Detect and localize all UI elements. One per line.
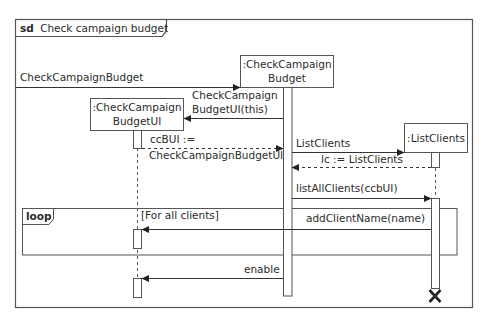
lifeline-name: :ListClients xyxy=(407,132,465,144)
sequence-diagram: sd Check campaign budget loop [For all c… xyxy=(0,0,485,320)
message-checkcampaignbudget: CheckCampaignBudget xyxy=(16,71,240,88)
lifeline-name-line1: :CheckCampaign xyxy=(92,101,181,113)
message-label: addClientName(name) xyxy=(306,212,425,224)
frame-keyword: sd xyxy=(20,22,34,34)
activation-bar xyxy=(284,88,293,297)
message-label: listAllClients(ccbUI) xyxy=(296,182,398,194)
message-label: CheckCampaignBudget xyxy=(20,71,143,83)
activation-bar xyxy=(134,279,142,298)
message-label-line1: ccBUI := xyxy=(150,133,195,145)
message-label-line2: CheckCampaignBudgetUI xyxy=(149,149,283,161)
message-label-line1: CheckCampaign xyxy=(192,89,278,101)
message-label: lc := ListClients xyxy=(321,153,403,165)
destroy-icon xyxy=(430,290,441,302)
loop-guard: [For all clients] xyxy=(141,209,219,221)
activation-bar xyxy=(134,131,142,149)
message-label: enable xyxy=(244,263,280,275)
frame-title-text: Check campaign budget xyxy=(40,22,168,34)
activation-bar xyxy=(432,199,440,289)
message-listallclients: listAllClients(ccbUI) xyxy=(292,182,431,199)
message-return-lc: lc := ListClients xyxy=(292,153,431,168)
lifeline-name-line1: :CheckCampaign xyxy=(242,58,331,70)
frame-title: sd Check campaign budget xyxy=(20,22,168,34)
message-return-ccbui: ccBUI := CheckCampaignBudgetUI xyxy=(142,133,283,161)
activation-bar xyxy=(432,153,440,168)
activation-bar xyxy=(134,230,142,249)
message-label: ListClients xyxy=(296,137,350,149)
message-create-checkcampaignbudgetui: CheckCampaign BudgetUI(this) xyxy=(184,89,283,119)
loop-operator: loop xyxy=(26,210,52,222)
lifeline-name-line2: Budget xyxy=(268,72,306,84)
message-create-listclients: ListClients xyxy=(292,137,404,153)
lifeline-name-line2: BudgetUI xyxy=(113,115,162,127)
lifeline-checkcampaignbudgetui: :CheckCampaign BudgetUI xyxy=(91,99,184,298)
message-enable: enable xyxy=(142,263,283,279)
message-label-line2: BudgetUI(this) xyxy=(192,103,268,115)
